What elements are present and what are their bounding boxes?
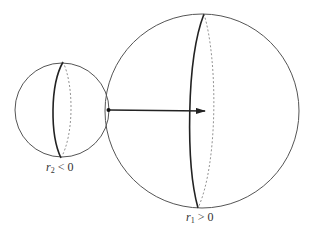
contact-point <box>107 108 111 112</box>
small-sphere-front-meridian <box>53 62 63 158</box>
large-sphere-label-relation: > 0 <box>195 210 214 224</box>
small-sphere <box>15 62 109 158</box>
small-sphere-label: r2 < 0 <box>46 160 73 175</box>
small-sphere-back-meridian <box>61 62 71 158</box>
two-spheres-diagram <box>0 0 311 233</box>
large-sphere-label: r1 > 0 <box>186 210 213 225</box>
small-sphere-label-relation: < 0 <box>55 160 74 174</box>
small-sphere-outline <box>15 63 109 157</box>
normal-vector-arrow <box>109 110 205 111</box>
